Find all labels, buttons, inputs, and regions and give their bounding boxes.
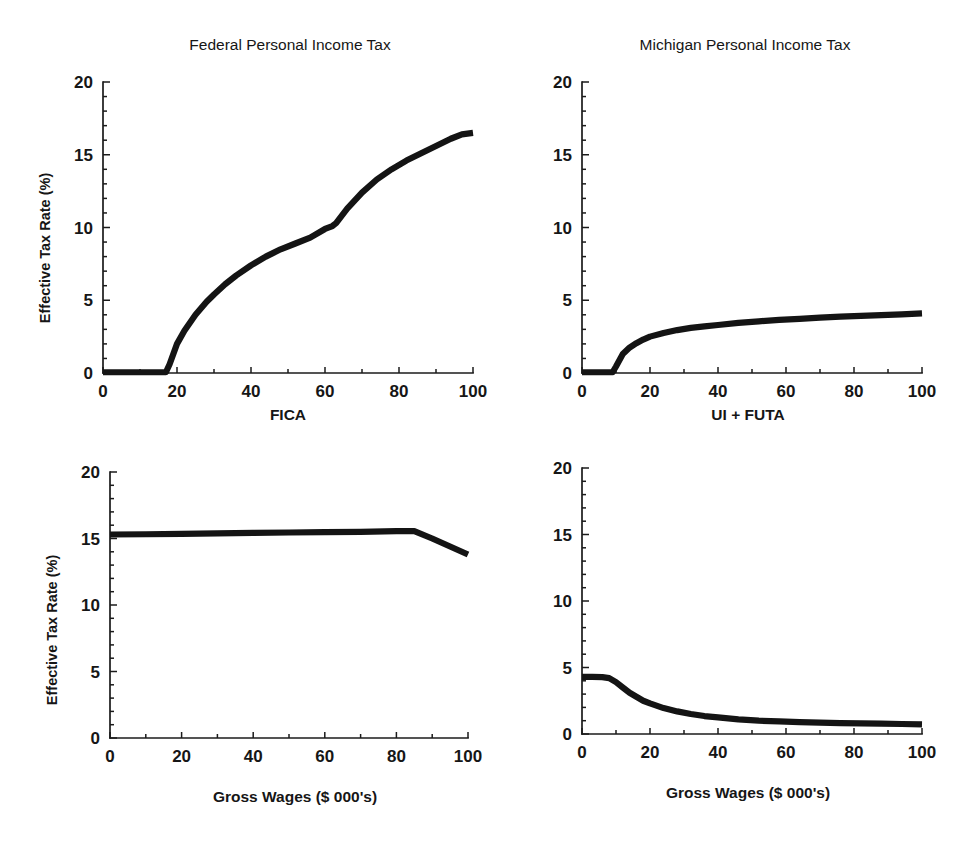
axes-federal — [103, 82, 473, 373]
x-tick-label: 100 — [908, 382, 936, 401]
tick-labels-federal-total: 05101520020406080100 — [81, 463, 482, 766]
x-tick-label: 80 — [387, 747, 406, 766]
x-tick-label: 0 — [577, 743, 586, 762]
y-tick-label: 15 — [74, 146, 93, 165]
x-tick-label: 80 — [390, 382, 409, 401]
x-tick-label: 60 — [316, 382, 335, 401]
x-tick-label: 80 — [845, 382, 864, 401]
data-curve-michigan-total — [582, 677, 922, 725]
y-tick-label: 10 — [553, 592, 572, 611]
x-tick-label: 20 — [641, 743, 660, 762]
ticks-michigan — [582, 82, 922, 373]
x-tick-label: 20 — [168, 382, 187, 401]
figure-canvas: Federal Personal Income Tax Effective Ta… — [0, 0, 965, 846]
axes-federal-total — [110, 472, 468, 738]
tick-labels-michigan: 05101520020406080100 — [553, 73, 936, 401]
chart-svg-federal-fica: Federal Personal Income Tax Effective Ta… — [0, 20, 500, 440]
y-tick-label: 0 — [563, 725, 572, 744]
y-tick-label: 15 — [553, 146, 572, 165]
y-tick-label: 20 — [81, 463, 100, 482]
panel-title-michigan: Michigan Personal Income Tax — [640, 36, 851, 53]
x-tick-label: 40 — [242, 382, 261, 401]
y-tick-label: 20 — [553, 459, 572, 478]
y-tick-label: 5 — [84, 291, 93, 310]
x-tick-label: 0 — [577, 382, 586, 401]
x-tick-label: 40 — [709, 743, 728, 762]
ticks-federal — [103, 82, 473, 373]
x-tick-label: 0 — [98, 382, 107, 401]
x-axis-label-michigan-total: Gross Wages ($ 000's) — [666, 784, 830, 801]
x-axis-label-federal-total: Gross Wages ($ 000's) — [213, 788, 377, 805]
y-axis-label-federal: Effective Tax Rate (%) — [37, 173, 53, 324]
panel-federal-total: Effective Tax Rate (%) 05101520020406080… — [0, 440, 500, 846]
x-tick-label: 60 — [315, 747, 334, 766]
axes-michigan — [582, 82, 922, 373]
panel-federal-fica: Federal Personal Income Tax Effective Ta… — [0, 20, 500, 440]
data-curve-michigan-ui-futa — [582, 313, 922, 372]
y-tick-label: 10 — [74, 219, 93, 238]
x-tick-label: 100 — [454, 747, 482, 766]
y-tick-label: 10 — [81, 596, 100, 615]
y-axis-label-federal-total: Effective Tax Rate (%) — [44, 555, 60, 706]
x-tick-label: 60 — [777, 743, 796, 762]
x-tick-label: 0 — [105, 747, 114, 766]
y-tick-label: 15 — [553, 526, 572, 545]
tick-labels-michigan-total: 05101520020406080100 — [553, 459, 936, 762]
data-curve-federal-fica — [103, 133, 473, 372]
x-axis-label-federal: FICA — [270, 406, 306, 423]
x-tick-label: 40 — [244, 747, 263, 766]
y-tick-label: 5 — [563, 291, 572, 310]
y-tick-label: 0 — [563, 364, 572, 383]
panel-title-federal: Federal Personal Income Tax — [189, 36, 391, 53]
y-tick-label: 10 — [553, 219, 572, 238]
y-tick-label: 15 — [81, 530, 100, 549]
chart-svg-michigan-total: 05101520020406080100 Gross Wages ($ 000'… — [480, 440, 965, 846]
y-tick-label: 5 — [563, 659, 572, 678]
x-tick-label: 80 — [845, 743, 864, 762]
y-tick-label: 20 — [74, 73, 93, 92]
x-tick-label: 60 — [777, 382, 796, 401]
panel-michigan-ui-futa: Michigan Personal Income Tax 05101520020… — [480, 20, 965, 440]
panel-michigan-total: 05101520020406080100 Gross Wages ($ 000'… — [480, 440, 965, 846]
x-tick-label: 40 — [709, 382, 728, 401]
x-tick-label: 20 — [641, 382, 660, 401]
ticks-federal-total — [110, 472, 468, 738]
data-curve-federal-total — [110, 531, 468, 554]
x-tick-label: 100 — [908, 743, 936, 762]
x-tick-label: 20 — [172, 747, 191, 766]
y-tick-label: 0 — [91, 729, 100, 748]
tick-labels-federal: 05101520020406080100 — [74, 73, 487, 401]
y-tick-label: 5 — [91, 663, 100, 682]
y-tick-label: 20 — [553, 73, 572, 92]
y-tick-label: 0 — [84, 364, 93, 383]
chart-svg-michigan-ui-futa: Michigan Personal Income Tax 05101520020… — [480, 20, 965, 440]
x-axis-label-michigan: UI + FUTA — [711, 406, 784, 423]
chart-svg-federal-total: Effective Tax Rate (%) 05101520020406080… — [0, 440, 500, 846]
